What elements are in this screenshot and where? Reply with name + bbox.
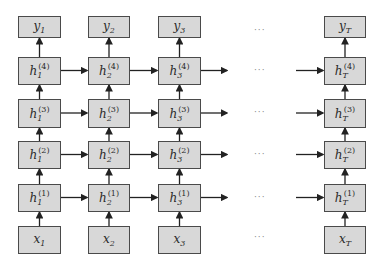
node-subscript: 1 bbox=[40, 26, 45, 35]
node-superscript: (2) bbox=[344, 146, 355, 155]
node-symbol: h bbox=[169, 107, 177, 121]
node-symbol: h bbox=[99, 107, 107, 121]
node-subscript: 2 bbox=[110, 26, 115, 35]
hidden-node-hT-layer4: hT(4) bbox=[324, 57, 366, 85]
node-superscript: (3) bbox=[38, 105, 49, 114]
node-superscript: (1) bbox=[178, 189, 189, 198]
input-node-xT: xT bbox=[324, 226, 366, 254]
hidden-node-h1-layer4: h1(4) bbox=[18, 57, 61, 85]
node-subscript: 2 bbox=[107, 71, 112, 80]
node-symbol: h bbox=[169, 64, 177, 78]
hidden-node-hT-layer2: hT(2) bbox=[324, 141, 366, 169]
node-symbol: h bbox=[335, 191, 343, 205]
node-superscript: (4) bbox=[344, 62, 355, 71]
node-symbol: y bbox=[339, 19, 346, 33]
output-node-yT: yT bbox=[324, 16, 366, 38]
hidden-node-h2-layer2: h2(2) bbox=[88, 141, 130, 169]
node-symbol: h bbox=[99, 64, 107, 78]
ellipsis-input-row: ··· bbox=[254, 232, 266, 242]
ellipsis-layer1-row: ··· bbox=[254, 192, 266, 202]
node-subscript: 3 bbox=[177, 114, 182, 123]
node-subscript: 1 bbox=[37, 198, 42, 207]
output-node-y2: y2 bbox=[88, 16, 130, 38]
node-symbol: h bbox=[29, 107, 37, 121]
hidden-node-h1-layer2: h1(2) bbox=[18, 141, 61, 169]
node-superscript: (3) bbox=[108, 105, 119, 114]
node-subscript: 2 bbox=[107, 155, 112, 164]
node-superscript: (4) bbox=[178, 62, 189, 71]
node-subscript: T bbox=[343, 198, 348, 207]
node-subscript: 3 bbox=[177, 155, 182, 164]
node-superscript: (2) bbox=[38, 146, 49, 155]
input-node-x2: x2 bbox=[88, 226, 130, 254]
node-symbol: h bbox=[169, 191, 177, 205]
node-symbol: h bbox=[335, 64, 343, 78]
node-symbol: h bbox=[99, 148, 107, 162]
input-node-x1: x1 bbox=[18, 226, 61, 254]
hidden-node-hT-layer1: hT(1) bbox=[324, 184, 366, 212]
node-subscript: 3 bbox=[180, 239, 185, 248]
hidden-node-h2-layer3: h2(3) bbox=[88, 99, 130, 128]
node-subscript: 2 bbox=[107, 114, 112, 123]
node-superscript: (4) bbox=[38, 62, 49, 71]
hidden-node-h3-layer2: h3(2) bbox=[158, 141, 201, 169]
node-symbol: y bbox=[103, 19, 110, 33]
node-subscript: 2 bbox=[107, 198, 112, 207]
ellipsis-output-row: ··· bbox=[254, 25, 266, 35]
node-symbol: h bbox=[29, 148, 37, 162]
node-subscript: T bbox=[343, 155, 348, 164]
node-subscript: 1 bbox=[37, 71, 42, 80]
hidden-node-h1-layer3: h1(3) bbox=[18, 99, 61, 128]
node-subscript: T bbox=[346, 239, 351, 248]
node-subscript: 1 bbox=[40, 239, 45, 248]
node-superscript: (3) bbox=[178, 105, 189, 114]
input-node-x3: x3 bbox=[158, 226, 201, 254]
hidden-node-h2-layer1: h2(1) bbox=[88, 184, 130, 212]
node-subscript: 1 bbox=[37, 155, 42, 164]
node-subscript: T bbox=[343, 114, 348, 123]
node-symbol: h bbox=[29, 191, 37, 205]
node-symbol: x bbox=[103, 232, 110, 246]
hidden-node-h3-layer1: h3(1) bbox=[158, 184, 201, 212]
node-symbol: h bbox=[29, 64, 37, 78]
node-subscript: 1 bbox=[37, 114, 42, 123]
node-symbol: h bbox=[335, 107, 343, 121]
hidden-node-hT-layer3: hT(3) bbox=[324, 99, 366, 128]
hidden-node-h1-layer1: h1(1) bbox=[18, 184, 61, 212]
deep-rnn-diagram: y1 h1(4) h1(3) h1(2) h1(1) x1 y2 h2(4) h… bbox=[0, 0, 383, 265]
node-superscript: (3) bbox=[344, 105, 355, 114]
ellipsis-layer3-row: ··· bbox=[254, 107, 266, 117]
node-symbol: h bbox=[335, 148, 343, 162]
node-superscript: (4) bbox=[108, 62, 119, 71]
hidden-node-h3-layer4: h3(4) bbox=[158, 57, 201, 85]
node-superscript: (2) bbox=[108, 146, 119, 155]
node-subscript: 3 bbox=[177, 71, 182, 80]
node-superscript: (2) bbox=[178, 146, 189, 155]
node-subscript: T bbox=[346, 26, 351, 35]
ellipsis-layer4-row: ··· bbox=[254, 65, 266, 75]
node-superscript: (1) bbox=[344, 189, 355, 198]
node-subscript: T bbox=[343, 71, 348, 80]
output-node-y3: y3 bbox=[158, 16, 201, 38]
node-subscript: 3 bbox=[180, 26, 185, 35]
ellipsis-layer2-row: ··· bbox=[254, 149, 266, 159]
node-symbol: x bbox=[339, 232, 346, 246]
node-superscript: (1) bbox=[38, 189, 49, 198]
hidden-node-h3-layer3: h3(3) bbox=[158, 99, 201, 128]
node-superscript: (1) bbox=[108, 189, 119, 198]
node-subscript: 2 bbox=[110, 239, 115, 248]
node-symbol: h bbox=[99, 191, 107, 205]
node-subscript: 3 bbox=[177, 198, 182, 207]
hidden-node-h2-layer4: h2(4) bbox=[88, 57, 130, 85]
node-symbol: h bbox=[169, 148, 177, 162]
output-node-y1: y1 bbox=[18, 16, 61, 38]
